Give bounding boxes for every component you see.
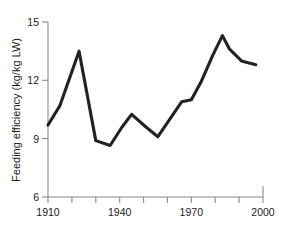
x-tick-label-1940: 1940 (108, 206, 132, 218)
y-tick-label-15: 15 (27, 16, 39, 28)
y-tick-label-6: 6 (33, 191, 39, 203)
feeding-efficiency-line-chart: 15 12 9 6 1910 1940 1970 2000 Feeding ef… (0, 0, 285, 242)
chart-container: 15 12 9 6 1910 1940 1970 2000 Feeding ef… (0, 0, 285, 242)
y-tick-label-9: 9 (33, 133, 39, 145)
y-tick-label-12: 12 (27, 74, 39, 86)
y-axis-title: Feeding efficiency (kg/kg LW) (10, 38, 22, 182)
x-tick-label-2000: 2000 (251, 206, 275, 218)
x-tick-label-1910: 1910 (36, 206, 60, 218)
x-tick-label-1970: 1970 (180, 206, 204, 218)
